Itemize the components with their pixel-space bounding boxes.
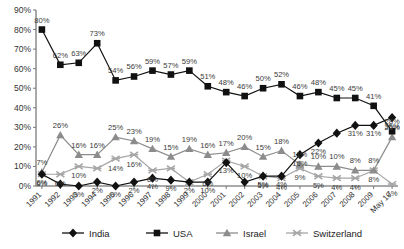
data-point-india-2007 [333, 129, 341, 138]
y-tick-label: 40% [14, 103, 31, 113]
data-point-switzerland-2000 [204, 171, 212, 177]
legend-item-india[interactable]: India [62, 228, 110, 239]
legend-item-usa[interactable]: USA [146, 228, 193, 239]
data-label-israel-2001: 17% [219, 139, 234, 148]
data-label-israel-1991: 7% [36, 158, 47, 167]
data-label-israel-1993: 16% [71, 141, 86, 150]
data-point-israel-1998 [167, 152, 175, 159]
data-label-india-2008: 31% [348, 129, 363, 138]
y-axis: 0%10%20%30%40%50%60%70%80%90% [14, 5, 36, 191]
chart-legend: IndiaUSAIsraelSwitzerland [62, 228, 362, 239]
x-tick-label: 1991 [24, 190, 43, 209]
x-tick-label: 1992 [43, 190, 62, 209]
data-label-switzerland-1992: 6% [55, 179, 66, 188]
data-point-israel-1997 [148, 145, 156, 152]
data-label-usa-1999: 59% [182, 57, 197, 66]
data-label-israel-1999: 19% [182, 135, 197, 144]
data-point-usa-2006 [315, 89, 322, 96]
data-label-switzerland-2005: 9% [294, 173, 305, 182]
y-tick-label: 10% [14, 161, 31, 171]
data-label-israel-2004: 18% [274, 137, 289, 146]
series-layer [38, 26, 397, 190]
y-tick-label: 70% [14, 44, 31, 54]
legend-label-india: India [89, 228, 110, 239]
data-label-switzerland-2006: 5% [313, 181, 324, 190]
data-label-israel-1998: 15% [163, 143, 178, 152]
data-point-israel-1995 [111, 133, 119, 140]
data-label-israel-2000: 16% [200, 141, 215, 150]
x-tick-label: 2006 [301, 190, 320, 209]
data-label-usa-2000: 51% [200, 72, 215, 81]
data-label-usa-2008: 45% [348, 84, 363, 93]
data-label-usa-1998: 57% [163, 61, 178, 70]
data-point-usa-2001 [223, 89, 230, 96]
y-tick-label: 80% [14, 25, 31, 35]
data-label-india-1998: 9% [165, 184, 176, 193]
data-label-switzerland-2000: 6% [202, 179, 213, 188]
data-label-switzerland-2001: 13% [219, 166, 234, 175]
data-point-switzerland-1998 [167, 166, 175, 172]
legend-label-israel: Israel [243, 228, 266, 239]
data-point-israel-2004 [277, 147, 285, 154]
data-label-india-1993: 0% [73, 190, 84, 199]
data-label-israel-1996: 23% [126, 127, 141, 136]
data-label-switzerland-1997: 8% [147, 175, 158, 184]
data-point-switzerland-2002 [240, 164, 248, 170]
data-point-usa-1991 [39, 26, 46, 33]
data-label-india-2009: 31% [366, 129, 381, 138]
y-tick-label: 50% [14, 83, 31, 93]
data-point-switzerland-2007 [333, 175, 341, 181]
legend-marker-india [69, 228, 77, 237]
data-label-switzerland-2007: 4% [331, 183, 342, 192]
data-point-israel-1992 [56, 131, 64, 138]
data-point-usa-2003 [260, 85, 267, 92]
data-point-usa-2004 [278, 81, 285, 88]
data-point-switzerland-1995 [111, 156, 119, 162]
data-label-israel-2007: 10% [329, 152, 344, 161]
data-label-switzerland-1991: 6% [36, 179, 47, 188]
data-point-usa-1993 [75, 60, 82, 67]
data-label-israel-2002: 20% [237, 133, 252, 142]
data-label-usa-2009: 41% [366, 92, 381, 101]
data-label-usa-2005: 46% [292, 82, 307, 91]
data-point-switzerland-2008 [351, 175, 359, 181]
data-label-usa-2006: 48% [311, 78, 326, 87]
y-tick-label: 20% [14, 142, 31, 152]
data-point-usa-1996 [131, 73, 138, 80]
data-label-israel-2005: 11% [293, 150, 308, 159]
chart-canvas: 0%10%20%30%40%50%60%70%80%90% 1991199219… [0, 0, 404, 249]
data-point-usa-2002 [241, 93, 248, 100]
x-tick-label: 2004 [264, 190, 283, 209]
data-label-india-1996: 2% [129, 186, 140, 195]
data-label-usa-1996: 56% [126, 62, 141, 71]
legend-item-israel[interactable]: Israel [216, 228, 266, 239]
legend-marker-usa [154, 230, 161, 237]
data-label-israel-1995: 25% [108, 123, 123, 132]
data-point-switzerland-1994 [93, 166, 101, 172]
x-tick-label: 2008 [338, 190, 357, 209]
data-label-israel-2009: 8% [368, 156, 379, 165]
y-tick-label: 30% [14, 122, 31, 132]
data-label-india-1995: 0% [110, 190, 121, 199]
data-label-switzerland-1996: 16% [126, 160, 141, 169]
legend-label-switzerland: Switzerland [313, 228, 362, 239]
data-label-israel-1997: 19% [145, 135, 160, 144]
data-point-israel-1999 [185, 145, 193, 152]
legend-item-switzerland[interactable]: Switzerland [286, 228, 362, 239]
x-tick-label: 2005 [282, 190, 301, 209]
data-label-israel-2008: 8% [350, 156, 361, 165]
data-label-switzerland-2008: 4% [350, 183, 361, 192]
legend-label-usa: USA [173, 228, 193, 239]
data-label-usa-1992: 62% [53, 51, 68, 60]
data-label-switzerland-2004: 4% [276, 183, 287, 192]
data-label-india-2005: 16% [292, 159, 307, 168]
legend-marker-switzerland [293, 230, 301, 236]
data-point-israel-2002 [240, 143, 248, 150]
y-tick-label: 0% [19, 181, 32, 191]
data-label-switzerland-2003: 5% [258, 181, 269, 190]
data-point-switzerland-2006 [314, 173, 322, 179]
data-label-usa-1991: 80% [34, 16, 49, 25]
data-label-usa-2001: 48% [219, 78, 234, 87]
x-tick-label: 2003 [246, 190, 265, 209]
data-label-usa-1993: 63% [71, 49, 86, 58]
